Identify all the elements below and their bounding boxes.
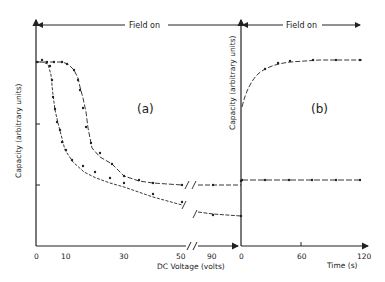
x-tick-30: 30 xyxy=(119,252,129,261)
axis-break-icon xyxy=(187,242,197,250)
x-tick-b-120: 120 xyxy=(357,252,372,261)
x-tick-b-0: 0 xyxy=(239,252,244,261)
series-steep-points xyxy=(36,59,242,217)
x-tick-10: 10 xyxy=(61,252,71,261)
x-tick-90: 90 xyxy=(207,252,217,261)
x-tick-50: 50 xyxy=(176,252,186,261)
x-tick-b-60: 60 xyxy=(297,252,307,261)
y-axis-label-b: Capacity (arbitrary units) xyxy=(228,35,237,130)
panel-label-b: (b) xyxy=(311,102,328,116)
field-on-label-a: Field on xyxy=(129,21,160,30)
panel-a: Field on (a) Capacity (arbitrary units) … xyxy=(14,20,242,271)
x-axis-label-a: DC Voltage (volts) xyxy=(157,262,225,271)
y-axis-label-a: Capacity (arbitrary units) xyxy=(14,83,23,178)
figure: Field on (a) Capacity (arbitrary units) … xyxy=(0,0,385,282)
series-steep-curve xyxy=(36,62,182,205)
panel-label-a: (a) xyxy=(137,102,154,116)
panel-b: Field on (b) Capacity (arbitrary units) … xyxy=(228,20,372,270)
series-shifted-points xyxy=(53,61,242,186)
x-axis-label-b: Time (s) xyxy=(326,261,358,270)
series-recovery-curve xyxy=(242,60,362,107)
field-on-label-b: Field on xyxy=(286,21,317,30)
x-tick-0: 0 xyxy=(34,252,39,261)
